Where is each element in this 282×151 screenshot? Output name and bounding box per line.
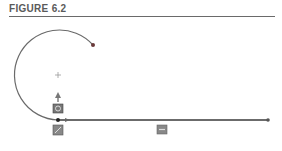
shared-endpoint[interactable] (56, 118, 60, 122)
line-endpoint[interactable] (266, 118, 270, 122)
sketch-canvas (0, 0, 282, 151)
tangent-relation-icon[interactable] (53, 104, 63, 113)
arc-center-mark (55, 72, 61, 78)
arc-endpoint[interactable] (91, 43, 95, 47)
horizontal-relation-icon[interactable] (157, 125, 167, 134)
direction-arrow-icon (55, 92, 61, 102)
coincident-relation-icon[interactable] (53, 125, 63, 135)
line-arrow-icon (65, 118, 70, 122)
